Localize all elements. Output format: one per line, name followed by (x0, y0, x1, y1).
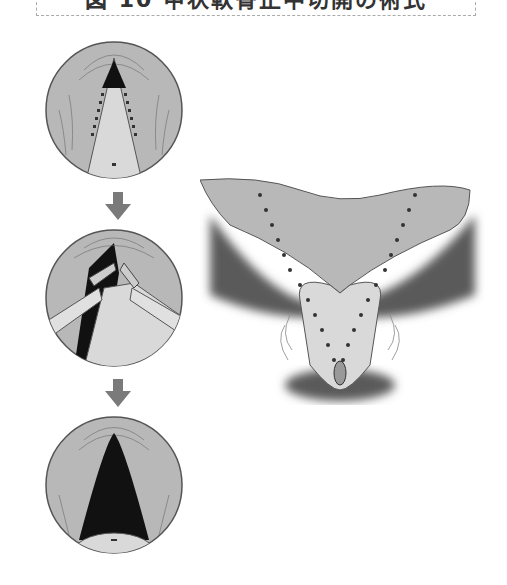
larynx-side-illustration (200, 175, 485, 415)
down-arrow-icon (105, 192, 131, 220)
endoscopic-view-step-1 (44, 40, 184, 180)
figure-caption-box: 図 10 甲状軟骨正中切開の術式 (36, 0, 476, 16)
endoscopic-view-step-3 (44, 415, 184, 555)
endoscopic-view-step-2 (44, 228, 184, 368)
down-arrow-icon (105, 379, 131, 407)
figure-title: 図 10 甲状軟骨正中切開の術式 (37, 0, 475, 13)
